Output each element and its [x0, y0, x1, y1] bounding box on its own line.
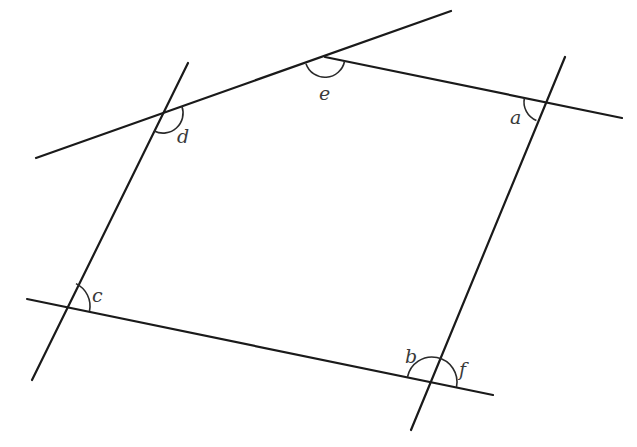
angle-arc-e — [306, 61, 345, 77]
top-left-line — [36, 11, 451, 158]
angle-arc-a — [524, 98, 536, 121]
angle-label-f: f — [457, 358, 469, 380]
bottom-line — [27, 299, 493, 395]
left-line — [32, 63, 188, 380]
angle-label-e: e — [319, 82, 330, 104]
angle-label-c: c — [92, 284, 103, 306]
right-line — [411, 57, 565, 430]
angle-label-d: d — [177, 125, 189, 147]
top-right-line — [325, 57, 622, 118]
pentagon-angle-diagram: e d a c b f — [0, 0, 637, 447]
angle-label-b: b — [405, 345, 417, 367]
angle-label-a: a — [510, 106, 521, 128]
